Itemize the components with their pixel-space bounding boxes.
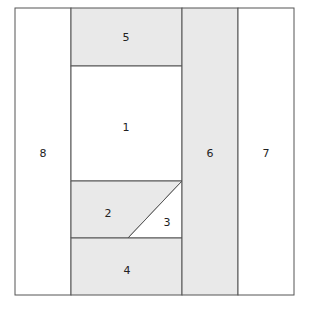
region-label-7: 7 [263, 147, 270, 160]
region-label-4: 4 [124, 264, 131, 277]
partition-diagram: 1 2 3 4 5 6 7 8 [0, 0, 309, 314]
region-label-2: 2 [105, 207, 112, 220]
region-label-3: 3 [164, 216, 171, 229]
region-label-5: 5 [123, 31, 130, 44]
region-label-8: 8 [40, 147, 47, 160]
region-label-1: 1 [123, 121, 130, 134]
region-label-6: 6 [207, 147, 214, 160]
